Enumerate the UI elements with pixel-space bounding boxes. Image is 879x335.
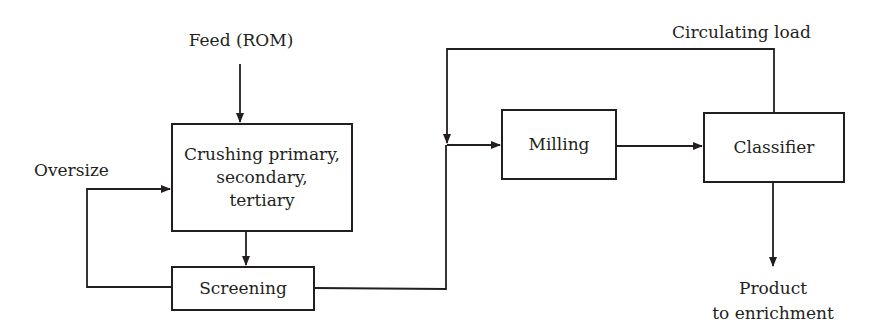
classifier-node-label: Classifier bbox=[734, 136, 815, 159]
milling-node: Milling bbox=[501, 109, 617, 180]
product-destination-label: to enrichment bbox=[703, 301, 843, 325]
feed-label: Feed (ROM) bbox=[180, 28, 302, 52]
circulating-load-label: Circulating load bbox=[672, 20, 811, 44]
screening-node: Screening bbox=[171, 266, 315, 311]
oversize-label: Oversize bbox=[34, 158, 109, 182]
crushing-node-label: Crushing primary, secondary, tertiary bbox=[184, 143, 340, 212]
product-label: Product bbox=[703, 276, 843, 300]
crushing-node: Crushing primary, secondary, tertiary bbox=[171, 123, 353, 232]
classifier-node: Classifier bbox=[703, 112, 845, 183]
milling-node-label: Milling bbox=[529, 133, 590, 156]
oversize-loop-arrow bbox=[87, 189, 171, 287]
screening-node-label: Screening bbox=[199, 277, 287, 300]
